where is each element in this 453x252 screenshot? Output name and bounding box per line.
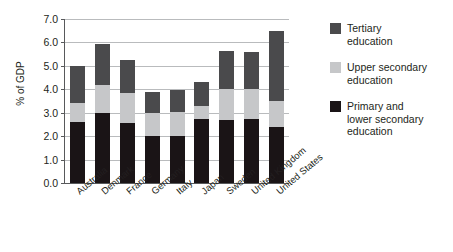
bar-segment — [269, 31, 284, 101]
plot-area: 7.06.05.04.03.02.01.00.0 — [64, 19, 289, 184]
bar-segment — [145, 113, 160, 136]
y-axis-tick-label: 7.0 — [43, 13, 58, 25]
y-axis-tick — [61, 19, 65, 20]
bar-denmark — [95, 44, 110, 183]
y-axis-tick-label: 3.0 — [43, 107, 58, 119]
legend-swatch — [330, 101, 341, 112]
y-axis-tick — [61, 66, 65, 67]
bar-japan — [194, 82, 209, 183]
legend-label: Tertiaryeducation — [347, 22, 393, 47]
bar-segment — [244, 52, 259, 89]
y-axis-tick — [61, 113, 65, 114]
bar-australia — [70, 66, 85, 183]
legend-item[interactable]: Primary andlower secondaryeducation — [330, 100, 450, 138]
bar-segment — [244, 89, 259, 118]
y-axis-tick-label: 0.0 — [43, 177, 58, 189]
bar-segment — [70, 122, 85, 183]
legend-swatch — [330, 62, 341, 73]
bar-segment — [219, 89, 234, 119]
bar-segment — [194, 106, 209, 119]
legend-label: Primary andlower secondaryeducation — [347, 100, 423, 138]
legend-label: Upper secondaryeducation — [347, 61, 427, 86]
y-axis-title: % of GDP — [15, 44, 26, 124]
y-axis-tick — [61, 89, 65, 90]
bar-segment — [170, 90, 185, 111]
legend-item[interactable]: Tertiaryeducation — [330, 22, 450, 47]
bar-united-kingdom — [244, 52, 259, 183]
bar-segment — [219, 51, 234, 90]
y-axis-tick — [61, 42, 65, 43]
bar-segment — [95, 85, 110, 113]
legend-item[interactable]: Upper secondaryeducation — [330, 61, 450, 86]
bar-segment — [194, 119, 209, 183]
y-axis-tick-label: 1.0 — [43, 154, 58, 166]
y-gridline — [65, 19, 289, 20]
bar-segment — [194, 82, 209, 105]
bar-segment — [219, 120, 234, 183]
chart-legend: TertiaryeducationUpper secondaryeducatio… — [330, 22, 450, 152]
bar-segment — [120, 93, 135, 123]
y-axis-tick-label: 6.0 — [43, 36, 58, 48]
bar-segment — [70, 103, 85, 122]
bar-segment — [145, 92, 160, 113]
bar-sweden — [219, 51, 234, 183]
y-axis-tick — [61, 160, 65, 161]
bar-segment — [120, 60, 135, 93]
bar-segment — [170, 112, 185, 137]
bar-segment — [269, 101, 284, 127]
y-axis-tick — [61, 136, 65, 137]
bar-segment — [95, 44, 110, 85]
stacked-bar-chart: % of GDP 7.06.05.04.03.02.01.00.0 Austra… — [0, 0, 453, 252]
bar-segment — [70, 66, 85, 103]
legend-swatch — [330, 23, 341, 34]
y-axis-tick-label: 4.0 — [43, 83, 58, 95]
y-axis-tick-label: 5.0 — [43, 60, 58, 72]
y-axis-tick — [61, 183, 65, 184]
y-axis-tick-label: 2.0 — [43, 130, 58, 142]
